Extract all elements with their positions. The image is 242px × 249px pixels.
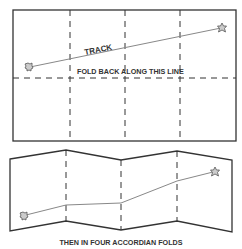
- accordion-caption: THEN IN FOUR ACCORDIAN FOLDS: [59, 238, 182, 247]
- accordion-start-marker-icon: [20, 212, 28, 220]
- flat-map-panel: TRACK FOLD BACK ALONG THIS LINE: [13, 10, 236, 141]
- accordion-track-line: [26, 172, 213, 215]
- accordion-map-panel: THEN IN FOUR ACCORDIAN FOLDS: [10, 150, 232, 247]
- accordion-end-marker-icon: [211, 167, 220, 176]
- end-marker-icon: [218, 23, 227, 32]
- track-label: TRACK: [84, 43, 113, 57]
- fold-back-label: FOLD BACK ALONG THIS LINE: [77, 67, 184, 76]
- map-folding-diagram: TRACK FOLD BACK ALONG THIS LINE THEN IN …: [0, 0, 242, 249]
- start-marker-icon: [25, 63, 33, 71]
